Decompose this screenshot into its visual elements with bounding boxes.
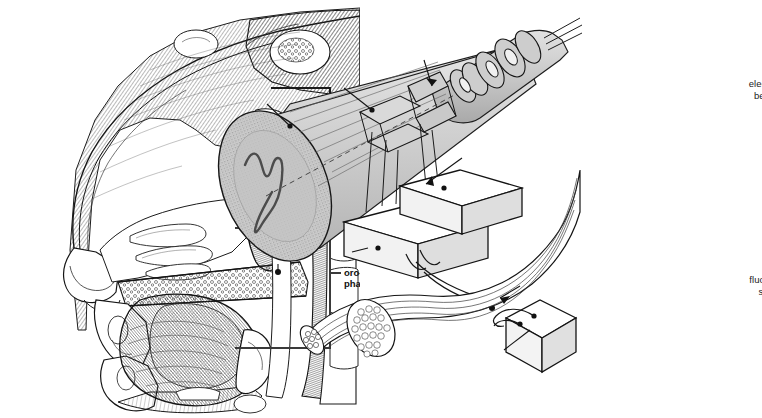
figure-title: cathode-ray oscilloscope: [748, 26, 762, 126]
figure-page: naso- pharynx oro- pharynx: [0, 0, 762, 418]
cathode-ray-oscilloscope-illustration: [0, 0, 762, 418]
label-fluorescent-screen: fluorescent screen: [723, 274, 762, 297]
oscilloscope-figure-panel: cathode-ray oscilloscope horizontal defl…: [360, 0, 762, 418]
figure-title-line1: cathode-ray: [748, 51, 762, 64]
label-electron-beam: electron beam: [723, 78, 762, 101]
electric-stimulator-box: [494, 300, 576, 372]
